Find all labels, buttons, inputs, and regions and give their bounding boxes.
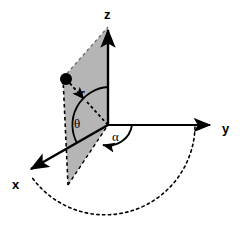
x-axis-label: x xyxy=(12,178,19,191)
z-axis-label: z xyxy=(104,8,111,21)
spherical-coordinate-diagram: z y x θ α r xyxy=(0,0,246,228)
radius-label: r xyxy=(80,87,85,99)
y-axis-label: y xyxy=(222,122,229,135)
point-marker xyxy=(60,73,72,85)
azimuthal-angle-label: α xyxy=(112,130,119,143)
shaded-half-plane xyxy=(63,27,108,185)
polar-angle-label: θ xyxy=(74,117,80,130)
diagram-canvas xyxy=(0,0,246,228)
